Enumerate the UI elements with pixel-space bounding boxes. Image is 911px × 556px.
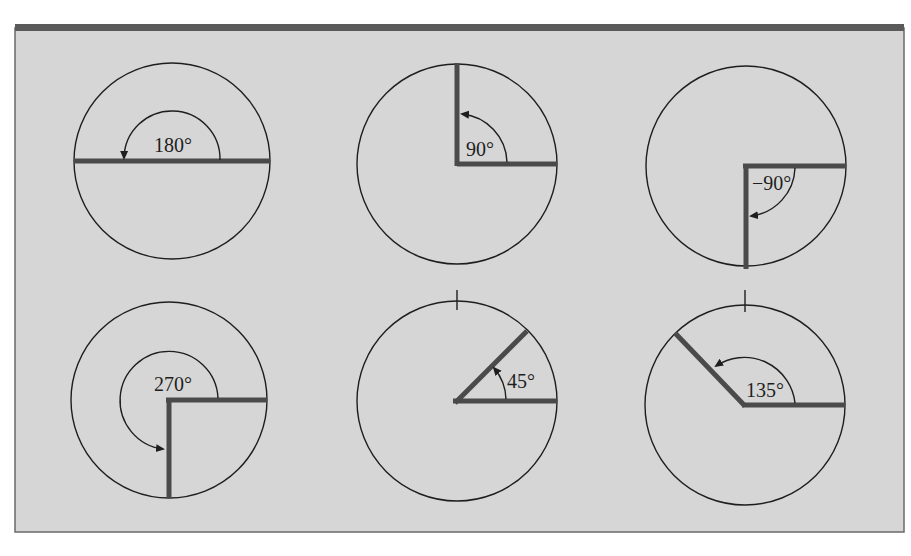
angle-label: 180° [154,134,192,156]
angle-diagram: 180° 90° −90° 270° 45° [0,0,911,556]
angle-label: −90° [752,172,791,194]
angle-label: 135° [746,379,784,401]
angle-label: 90° [466,138,494,160]
panel-top-border [15,24,904,31]
angle-label: 45° [507,370,535,392]
angle-label: 270° [154,373,192,395]
